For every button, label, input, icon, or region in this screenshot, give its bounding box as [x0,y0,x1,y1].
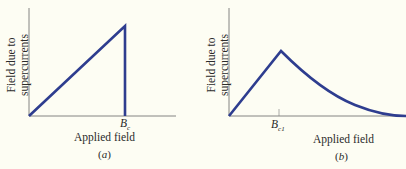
panel-a-tick-main: B [120,117,127,129]
panel-b-y-axis-label: Field due to supercurrents [205,20,231,110]
panel-a-tick-label: Bc [120,117,130,132]
panel-a-caption-letter: a [102,148,108,160]
panel-b-tick-sub: c1 [278,125,285,133]
panel-a-curve [29,26,125,116]
panel-a-ylabel-line1: Field due to [5,20,18,110]
panel-a-ylabel-line2: supercurrents [18,20,31,110]
panel-a-x-axis-label: Applied field [74,131,135,143]
panel-b-caption: (b) [335,150,348,162]
panel-b-caption-letter: b [339,150,345,162]
panel-b-tick-label: Bc1 [271,118,285,133]
panel-b-ylabel-line1: Field due to [205,20,218,110]
panel-a-caption: (a) [98,148,111,160]
panel-b-x-axis-label: Applied field [313,133,374,145]
panel-b-axes [229,8,406,116]
panel-b-tick-main: B [271,118,278,130]
panel-b-ylabel-line2: supercurrents [218,20,231,110]
panel-a-y-axis-label: Field due to supercurrents [5,20,31,110]
panel-b-curve [229,51,406,116]
panel-a-axes [29,8,176,116]
